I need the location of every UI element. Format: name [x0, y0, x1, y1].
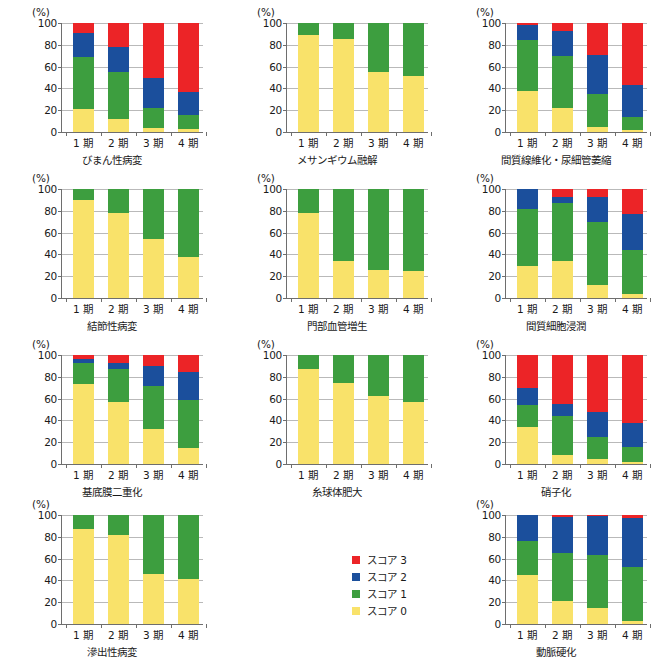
y-axis-tick-label: 0: [276, 458, 282, 470]
stacked-bar: [587, 189, 608, 298]
legend-item: スコア 1: [352, 585, 462, 602]
y-axis-tick-label: 0: [495, 458, 501, 470]
chart-panel: (%)0204060801001 期2 期3 期4 期結節性病変: [2, 172, 221, 338]
plot-area: 0204060801001 期2 期3 期4 期: [505, 23, 647, 132]
x-axis-tick-label: 3 期: [358, 301, 398, 316]
y-axis-tick-label: 40: [488, 574, 501, 586]
bar-segment: [517, 91, 538, 132]
x-axis-tick-label: 2 期: [98, 627, 138, 642]
x-axis-tick-label: 2 期: [323, 135, 363, 150]
bar-segment: [73, 363, 94, 385]
bar-segment: [333, 39, 354, 132]
bar-segment: [178, 115, 199, 129]
bar-segment: [108, 72, 129, 119]
y-axis-tick-label: 40: [269, 414, 282, 426]
y-axis-tick-label: 60: [44, 61, 57, 73]
chart-title: 間質線維化・尿細管萎縮: [446, 152, 658, 167]
bar-segment: [73, 355, 94, 359]
stacked-bar: [552, 355, 573, 464]
bar-segment: [333, 383, 354, 464]
x-axis-tick-label: 2 期: [98, 301, 138, 316]
stacked-bar: [143, 355, 164, 464]
y-axis-tick-mark: [58, 464, 61, 465]
y-axis-tick-mark: [502, 298, 505, 299]
y-axis-tick-label: 100: [482, 509, 501, 521]
bar-segment: [298, 189, 319, 213]
bar-segment: [622, 189, 643, 214]
y-axis-line: [61, 23, 62, 132]
y-axis-tick-label: 0: [276, 126, 282, 138]
y-axis-tick-label: 0: [495, 618, 501, 630]
x-axis-tick-label: 4 期: [393, 467, 433, 482]
stacked-bar: [178, 23, 199, 132]
y-axis-tick-label: 100: [38, 509, 57, 521]
bar-segment: [143, 366, 164, 386]
bar-segment: [368, 72, 389, 132]
chart-grid: (%)0204060801001 期2 期3 期4 期びまん性病変(%)0204…: [0, 0, 658, 663]
x-axis-tick-label: 1 期: [288, 301, 328, 316]
bar-segment: [178, 579, 199, 624]
x-axis-tick-label: 1 期: [507, 627, 547, 642]
plot-area: 0204060801001 期2 期3 期4 期: [61, 515, 203, 624]
bar-segment: [552, 197, 573, 204]
x-axis-tick-label: 3 期: [577, 627, 617, 642]
stacked-bar: [622, 515, 643, 624]
y-axis-line: [286, 355, 287, 464]
stacked-bar: [552, 515, 573, 624]
y-axis-tick-label: 100: [482, 349, 501, 361]
chart-title: 硝子化: [446, 484, 658, 499]
y-axis-tick-label: 20: [44, 104, 57, 116]
bar-segment: [143, 128, 164, 132]
x-axis-tick-label: 2 期: [542, 627, 582, 642]
stacked-bar: [143, 23, 164, 132]
y-axis-tick-label: 40: [269, 248, 282, 260]
bar-segment: [517, 427, 538, 464]
stacked-bar: [587, 355, 608, 464]
x-axis-tick-label: 1 期: [63, 467, 103, 482]
bar-segment: [587, 412, 608, 437]
stacked-bar: [517, 189, 538, 298]
x-axis-tick-label: 4 期: [168, 135, 208, 150]
y-axis-tick-mark: [58, 132, 61, 133]
bar-segment: [178, 515, 199, 579]
bar-segment: [368, 270, 389, 298]
bar-segment: [108, 213, 129, 298]
x-axis-tick-mark: [650, 464, 651, 468]
x-axis-tick-label: 4 期: [612, 301, 652, 316]
x-axis-tick-label: 1 期: [507, 301, 547, 316]
bar-segment: [108, 369, 129, 402]
bar-segment: [403, 402, 424, 464]
gridline: [286, 298, 428, 299]
bar-segment: [108, 515, 129, 535]
chart-panel: (%)0204060801001 期2 期3 期4 期硝子化: [446, 338, 658, 504]
plot-area: 0204060801001 期2 期3 期4 期: [505, 189, 647, 298]
y-axis-tick-label: 20: [269, 270, 282, 282]
x-axis-tick-mark: [206, 132, 207, 136]
y-axis-tick-label: 80: [488, 39, 501, 51]
bar-segment: [73, 359, 94, 362]
bar-segment: [517, 25, 538, 40]
x-axis-tick-label: 3 期: [577, 467, 617, 482]
x-axis-tick-label: 3 期: [358, 135, 398, 150]
bar-segment: [552, 31, 573, 56]
y-axis-tick-mark: [58, 624, 61, 625]
y-axis-tick-label: 20: [44, 270, 57, 282]
bar-segment: [517, 40, 538, 90]
stacked-bar: [178, 515, 199, 624]
legend-color-swatch: [352, 556, 360, 564]
stacked-bar: [73, 515, 94, 624]
x-axis-tick-label: 2 期: [98, 467, 138, 482]
stacked-bar: [108, 355, 129, 464]
x-axis-tick-label: 1 期: [288, 467, 328, 482]
bar-segment: [517, 515, 538, 541]
y-axis-tick-label: 40: [44, 574, 57, 586]
bar-segment: [587, 515, 608, 516]
bar-segment: [178, 189, 199, 257]
stacked-bar: [333, 355, 354, 464]
legend-item: スコア 3: [352, 551, 462, 568]
bar-segment: [143, 78, 164, 109]
legend-color-swatch: [352, 607, 360, 615]
y-axis-tick-label: 60: [44, 393, 57, 405]
bar-segment: [73, 109, 94, 132]
y-axis-tick-label: 100: [263, 17, 282, 29]
